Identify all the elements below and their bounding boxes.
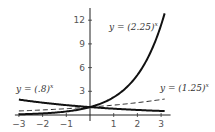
y-tick-label: 12	[74, 15, 85, 25]
label-0-8: y = (.8)x	[15, 82, 54, 94]
y-tick-label: 9	[79, 39, 85, 49]
x-tick-label: −2	[36, 119, 49, 129]
x-tick-label: 3	[158, 119, 164, 129]
labels: y = (2.25)x y = (1.25)x y = (.8)x	[15, 20, 209, 94]
x-tick-label: 1	[111, 119, 117, 129]
x-tick-label: 2	[135, 119, 141, 129]
y-tick-label: 3	[79, 86, 85, 96]
label-2-25: y = (2.25)x	[108, 20, 158, 32]
x-tick-label: −3	[12, 119, 25, 129]
x-tick-label: −1	[60, 119, 73, 129]
label-1-25: y = (1.25)x	[159, 81, 209, 93]
curve-1.25	[19, 99, 165, 111]
curve-0.8	[19, 100, 165, 112]
exponential-chart: −3−2−112336912 y = (2.25)x y = (1.25)x y…	[0, 0, 215, 132]
y-tick-label: 6	[79, 63, 85, 73]
